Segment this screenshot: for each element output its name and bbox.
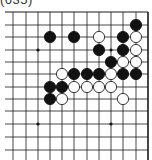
white-stone <box>56 93 67 104</box>
white-stone <box>68 81 79 92</box>
white-stone <box>56 68 67 79</box>
white-stone <box>81 81 92 92</box>
black-stone <box>44 31 55 42</box>
black-stone <box>93 44 104 55</box>
go-board[interactable] <box>0 0 152 160</box>
white-stone <box>105 81 116 92</box>
white-stone <box>105 68 116 79</box>
black-stone <box>81 68 92 79</box>
black-stone <box>93 68 104 79</box>
black-stone <box>117 44 128 55</box>
white-stone <box>117 56 128 67</box>
black-stone <box>105 56 116 67</box>
black-stone <box>44 93 55 104</box>
white-stone <box>130 56 141 67</box>
white-stone <box>130 31 141 42</box>
black-stone <box>130 19 141 30</box>
white-stone <box>93 31 104 42</box>
white-stone <box>93 81 104 92</box>
black-stone <box>117 31 128 42</box>
star-point <box>109 48 112 51</box>
star-point <box>36 48 39 51</box>
black-stone <box>68 68 79 79</box>
star-point <box>36 122 39 125</box>
white-stone <box>117 93 128 104</box>
black-stone <box>117 68 128 79</box>
black-stone <box>44 81 55 92</box>
star-point <box>109 122 112 125</box>
black-stone <box>68 31 79 42</box>
white-stone <box>130 44 141 55</box>
black-stone <box>130 68 141 79</box>
black-stone <box>56 81 67 92</box>
